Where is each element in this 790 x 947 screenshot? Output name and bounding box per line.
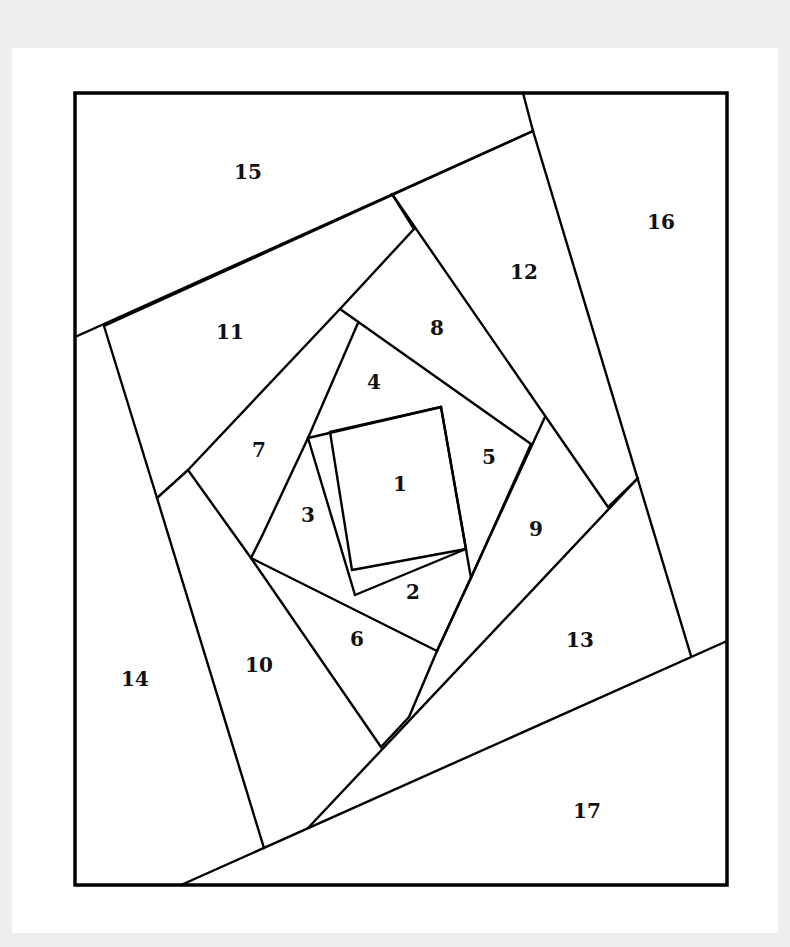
seam-line [308, 438, 355, 595]
seam-line [392, 194, 608, 507]
piece-label-8: 8 [430, 316, 444, 340]
piece-label-6: 6 [350, 627, 364, 651]
seam-line [188, 470, 251, 558]
seam-line [75, 131, 533, 337]
seam-line [308, 478, 638, 828]
seam-line [251, 536, 262, 558]
piece-label-1: 1 [393, 472, 407, 496]
piece-label-10: 10 [245, 653, 273, 677]
seam-line [340, 229, 414, 309]
seam-line [181, 641, 727, 885]
piece-label-12: 12 [510, 260, 538, 284]
piece-label-11: 11 [216, 320, 244, 344]
seam-line [308, 323, 358, 438]
piece-label-14: 14 [121, 667, 149, 691]
seam-line [381, 717, 409, 747]
piece-label-16: 16 [647, 210, 675, 234]
piece-label-17: 17 [573, 799, 601, 823]
piece-label-3: 3 [301, 503, 315, 527]
piece-label-2: 2 [406, 580, 420, 604]
paper-piecing-diagram: 1234567891011121314151617 [0, 0, 790, 947]
seam-line [104, 326, 157, 498]
seam-line [308, 407, 441, 438]
piece-label-5: 5 [482, 445, 496, 469]
piece-label-15: 15 [234, 160, 262, 184]
piece-label-7: 7 [252, 438, 266, 462]
seam-line [392, 194, 414, 229]
seam-line [523, 93, 533, 131]
piece-label-9: 9 [529, 517, 543, 541]
piece-label-4: 4 [367, 370, 381, 394]
seam-line [157, 470, 188, 498]
piece-label-13: 13 [566, 628, 594, 652]
seam-line [352, 549, 466, 570]
